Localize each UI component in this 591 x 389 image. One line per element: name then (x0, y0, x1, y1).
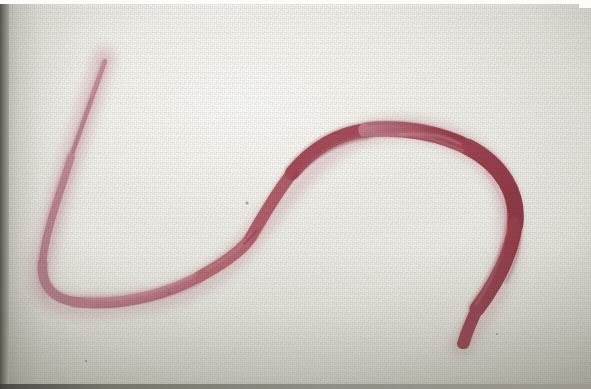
bottom-edge-band (0, 384, 591, 389)
specimen-layer (0, 4, 591, 389)
left-edge-band (0, 4, 9, 389)
photograph-frame: Close-up photograph of a long, slender r… (0, 0, 591, 389)
photograph-field: Close-up photograph of a long, slender r… (0, 4, 591, 389)
top-letterbox-strip (0, 0, 591, 4)
worm-segments-from-data (42, 62, 515, 342)
top-right-sliver (579, 0, 591, 8)
worm-specimen (0, 4, 591, 389)
backdrop-specks (85, 202, 498, 363)
